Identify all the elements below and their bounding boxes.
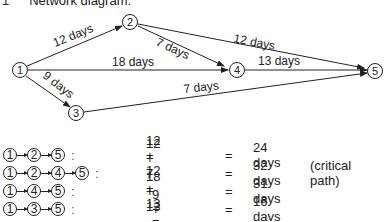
arrow-icon [17, 209, 27, 210]
edge-1-3: 9 days [26, 68, 77, 107]
edge-label: 7 days [183, 78, 220, 96]
critical-path-note: (critical path) [310, 158, 351, 188]
svg-text:1: 1 [17, 64, 23, 76]
path-expression: 9 + 7 [152, 187, 160, 222]
path-node: 1 [3, 202, 17, 216]
path-table: 1 2 5 : 12 + 12 = 24 days 1 2 4 5 : 12 +… [3, 146, 143, 218]
path-node: 5 [51, 202, 65, 216]
edge-3-5: 7 days [84, 73, 367, 112]
arrow-icon [65, 173, 75, 174]
edge-1-4: 18 days [28, 55, 228, 70]
equals-sign: = [225, 148, 233, 163]
equals-sign: = [225, 166, 233, 181]
path-node: 2 [27, 148, 41, 162]
path-node: 4 [27, 184, 41, 198]
path-node: 2 [27, 166, 41, 180]
edge-label: 9 days [40, 68, 76, 101]
path-chain: 1 3 5 : [3, 202, 143, 217]
path-row: 1 2 4 5 : 12 + 7 + 13 = 32 days (critica… [3, 164, 143, 182]
path-node: 5 [51, 148, 65, 162]
path-result: 16 days [253, 194, 280, 221]
edge-label: 18 days [112, 55, 154, 69]
arrow-icon [17, 155, 27, 156]
edge-1-2: 12 days [27, 21, 122, 66]
svg-text:3: 3 [73, 107, 79, 119]
path-node: 1 [3, 166, 17, 180]
node-2: 2 [123, 15, 138, 30]
node-1: 1 [13, 63, 28, 78]
path-node: 1 [3, 184, 17, 198]
path-node: 3 [27, 202, 41, 216]
path-row: 1 3 5 : 9 + 7 = 16 days [3, 200, 143, 218]
arrow-icon [17, 191, 27, 192]
path-node: 4 [51, 166, 65, 180]
arrow-icon [41, 191, 51, 192]
network-diagram: 12 days 7 days 12 days 18 days 13 days 9… [0, 0, 387, 140]
arrow-icon [41, 155, 51, 156]
svg-text:2: 2 [127, 16, 133, 28]
edge-label: 7 days [154, 35, 192, 62]
equals-sign: = [225, 202, 233, 217]
edge-label: 12 days [51, 21, 95, 50]
arrow-icon [41, 173, 51, 174]
path-node: 5 [75, 166, 89, 180]
path-node: 5 [51, 184, 65, 198]
node-3: 3 [69, 106, 84, 121]
path-row: 1 2 5 : 12 + 12 = 24 days [3, 146, 143, 164]
node-4: 4 [230, 63, 245, 78]
svg-text:4: 4 [234, 64, 240, 76]
equals-sign: = [225, 184, 233, 199]
path-chain: 1 4 5 : [3, 184, 143, 199]
edge-label: 12 days [232, 31, 276, 53]
path-chain: 1 2 4 5 : [3, 166, 143, 181]
path-row: 1 4 5 : 18 + 13 = 31 days [3, 182, 143, 200]
path-node: 1 [3, 148, 17, 162]
edge-label: 13 days [258, 54, 300, 68]
arrow-icon [41, 209, 51, 210]
path-chain: 1 2 5 : [3, 148, 143, 163]
arrow-icon [17, 173, 27, 174]
node-5: 5 [368, 64, 383, 79]
svg-text:5: 5 [372, 65, 378, 77]
